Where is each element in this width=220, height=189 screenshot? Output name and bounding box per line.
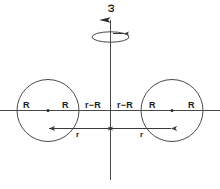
left-sphere-center-dot xyxy=(47,109,50,112)
right-sphere-radius-label-inner: R xyxy=(149,101,156,110)
right-sphere-center-dot xyxy=(171,109,174,112)
right-sphere-radius-label-outer: R xyxy=(188,101,195,110)
right-gap-label: r−R xyxy=(117,101,133,110)
left-sphere-radius-label-inner: R xyxy=(62,101,69,110)
rotating-spheres-diagram: ω R R r−R r−R R R r r xyxy=(0,0,220,189)
left-distance-label: r xyxy=(76,131,79,139)
omega-label: ω xyxy=(106,2,116,14)
left-gap-label: r−R xyxy=(85,101,101,110)
left-sphere-radius-label-outer: R xyxy=(23,101,30,110)
diagram-canvas xyxy=(0,0,220,189)
right-distance-label: r xyxy=(140,131,143,139)
